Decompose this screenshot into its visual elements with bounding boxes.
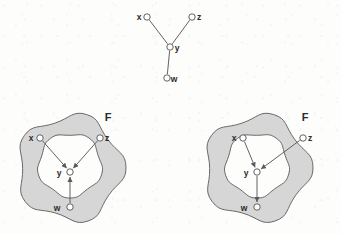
node-w-bottom-right-graph — [254, 204, 260, 210]
node-x-bottom-left-graph — [37, 135, 43, 141]
node-label-y-top-graph: y — [175, 43, 180, 53]
node-label-z-bottom-left-graph: z — [105, 133, 109, 143]
edge-x-to-y-top-graph — [150, 20, 168, 43]
set-label-bottom-left-graph: F — [105, 111, 112, 123]
node-y-bottom-left-graph — [67, 169, 73, 175]
node-x-top-graph — [144, 14, 150, 20]
node-z-top-graph — [189, 14, 195, 20]
node-z-bottom-left-graph — [97, 135, 103, 141]
node-label-z-bottom-right-graph: z — [308, 133, 312, 143]
node-label-w-bottom-right-graph: w — [240, 203, 248, 213]
figure-canvas: xzywxzywFxzywF — [0, 0, 341, 234]
node-label-z-top-graph: z — [197, 12, 201, 22]
graph-figure: xzywxzywFxzywF — [0, 0, 341, 234]
node-label-x-bottom-right-graph: x — [232, 133, 237, 143]
edge-z-to-y-top-graph — [173, 21, 190, 44]
node-label-y-bottom-left-graph: y — [57, 168, 62, 178]
node-label-x-bottom-left-graph: x — [29, 133, 34, 143]
node-y-top-graph — [167, 44, 173, 50]
node-label-y-bottom-right-graph: y — [244, 168, 249, 178]
node-label-x-top-graph: x — [137, 12, 142, 22]
node-x-bottom-right-graph — [240, 135, 246, 141]
node-z-bottom-right-graph — [300, 135, 306, 141]
set-label-bottom-right-graph: F — [302, 111, 309, 123]
edge-y-to-w-top-graph — [167, 51, 169, 73]
node-w-top-graph — [164, 75, 170, 81]
node-label-w-top-graph: w — [170, 74, 178, 84]
node-w-bottom-left-graph — [67, 204, 73, 210]
node-y-bottom-right-graph — [254, 169, 260, 175]
node-label-w-bottom-left-graph: w — [53, 203, 61, 213]
blob-layer — [20, 113, 313, 222]
